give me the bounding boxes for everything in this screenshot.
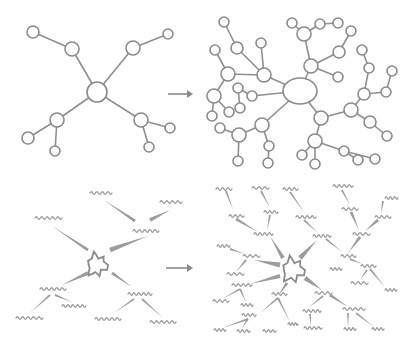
branch-wedge (109, 236, 148, 252)
arrow-right-icon (187, 264, 193, 272)
graph-node (210, 45, 220, 55)
graph-node (344, 103, 358, 117)
scribble-label (341, 255, 356, 258)
arrow-right-icon (187, 90, 193, 98)
branch-wedge (277, 298, 290, 322)
scribble-label (237, 330, 250, 333)
scribble-label (35, 217, 62, 220)
scribble-label (315, 292, 332, 295)
graph-node (50, 113, 64, 127)
graph-node (310, 159, 320, 169)
diagram-canvas (0, 0, 416, 349)
graph-node (315, 19, 325, 29)
branch-wedge (325, 238, 342, 252)
graph-node (387, 66, 397, 76)
graph-node (358, 88, 370, 100)
scribble-label (214, 329, 226, 332)
scribble-label (227, 273, 244, 276)
branch-wedge (355, 312, 374, 327)
graph-node (353, 155, 363, 165)
branch-wedge (309, 314, 311, 326)
graph-node (231, 42, 243, 54)
scribble-label (229, 215, 244, 218)
scribble-label (243, 255, 260, 258)
branch-wedge (365, 219, 379, 231)
scribble-label (62, 305, 86, 308)
branch-wedge (225, 191, 233, 210)
scribble-label (160, 201, 182, 204)
scribble-label (133, 230, 159, 233)
expanded-node-graph (207, 17, 397, 169)
graph-node (256, 38, 266, 48)
graph-node (287, 18, 297, 28)
transition-arrows (166, 90, 193, 272)
branch-wedge (239, 289, 246, 302)
scribble-label (344, 328, 356, 331)
graph-node (233, 83, 243, 93)
branch-wedge (149, 210, 170, 222)
scribble-label (353, 233, 370, 236)
scribble-label (330, 268, 342, 271)
scribble-label (217, 245, 230, 248)
scribble-label (288, 323, 298, 326)
graph-node (370, 154, 380, 164)
branch-wedge (303, 219, 318, 233)
branch-wedge (222, 318, 248, 328)
branch-wedge (341, 190, 350, 205)
scribble-label (372, 328, 384, 331)
graph-node (144, 142, 154, 152)
expanded-idea-map (213, 185, 398, 333)
branch-wedge (270, 236, 285, 259)
branch-wedge (369, 268, 385, 287)
branch-wedge (30, 294, 51, 313)
hub-node (283, 78, 317, 104)
branch-wedge (260, 191, 270, 208)
scribble-label (385, 289, 397, 292)
scribble-label (264, 211, 278, 214)
graph-node (264, 141, 274, 151)
branch-wedge (360, 269, 368, 280)
scribble-label (40, 288, 66, 291)
graph-node (364, 116, 376, 128)
graph-node (297, 27, 311, 41)
branch-wedge (62, 271, 89, 285)
branch-wedge (114, 298, 135, 313)
scribble-label (232, 284, 252, 287)
branch-wedge (348, 236, 361, 253)
scribble-label (252, 187, 269, 190)
branch-wedge (222, 288, 240, 299)
central-idea-blob (88, 252, 108, 277)
branch-wedge (260, 297, 279, 313)
branch-wedge (111, 272, 132, 287)
scribble-label (128, 293, 152, 296)
graph-node (134, 113, 148, 127)
scribble-label (304, 327, 322, 330)
branch-wedge (250, 274, 281, 284)
graph-node (224, 107, 234, 117)
graph-node (314, 111, 328, 125)
branch-wedge (350, 211, 359, 230)
graph-node (346, 26, 356, 36)
graph-node (382, 131, 392, 141)
branch-wedge (298, 240, 317, 260)
graph-node (215, 123, 225, 133)
branch-wedge (236, 259, 247, 272)
graph-node (339, 146, 349, 156)
scribble-label (343, 308, 365, 311)
scribble-label (95, 318, 121, 321)
scribble-label (375, 216, 391, 219)
branch-wedge (308, 295, 324, 308)
graph-node (207, 89, 221, 103)
scribble-label (16, 317, 43, 320)
graph-node (333, 18, 343, 28)
graph-node (255, 118, 269, 132)
branch-wedge (347, 313, 349, 327)
simple-node-graph (22, 26, 175, 156)
graph-node (207, 111, 217, 121)
graph-node (357, 45, 367, 55)
graph-node (364, 63, 374, 73)
branch-wedge (289, 191, 304, 212)
graph-node (50, 146, 60, 156)
scribble-label (216, 188, 232, 191)
branch-wedge (254, 260, 280, 267)
